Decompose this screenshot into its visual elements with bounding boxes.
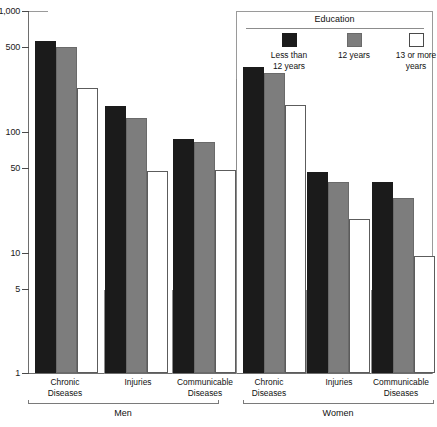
- bar-12-years: [194, 142, 215, 373]
- category-label-line1: Chronic: [255, 377, 284, 387]
- legend-label-line1: 13 or more: [384, 50, 437, 61]
- group-rule-women: [243, 403, 433, 404]
- x-axis-line: [28, 373, 433, 374]
- bar-12-years: [393, 198, 414, 373]
- legend-swatch-icon-dark: [282, 33, 297, 47]
- bar-13-or-more-years: [285, 105, 306, 373]
- category-label-women-communicable: Communicable Diseases: [366, 377, 436, 399]
- category-label-line2: Diseases: [366, 388, 436, 399]
- category-label-women-injuries: Injuries: [306, 377, 372, 388]
- category-label-line1: Injuries: [125, 377, 152, 387]
- y-tick-label-5: 5: [15, 285, 20, 294]
- category-label-line1: Injuries: [326, 377, 353, 387]
- legend-label-line2: years: [384, 61, 437, 72]
- y-tick-label-1: 1: [15, 369, 20, 378]
- y-tick-500: [22, 47, 29, 48]
- legend-label-line1: 12 years: [322, 50, 386, 61]
- bar-13-or-more-years: [77, 88, 98, 373]
- group-separator-2: [172, 290, 173, 374]
- bar-chart: 1,000 500 100 50 10 5 1 Chronic Diseases…: [0, 0, 437, 427]
- bar-13-or-more-years: [414, 256, 435, 373]
- group-rule-tick-men-left: [28, 400, 29, 404]
- legend-item-12-years[interactable]: 12 years: [322, 33, 386, 61]
- legend-title-underline: [246, 28, 424, 29]
- category-label-line1: Chronic: [51, 377, 80, 387]
- legend-title: Education: [236, 14, 433, 25]
- legend-item-less-than-12-years[interactable]: Less than 12 years: [257, 33, 321, 72]
- y-axis-line: [28, 11, 29, 374]
- bar-less-than-12-years: [243, 67, 264, 373]
- group-rule-men: [28, 403, 218, 404]
- legend-label-line1: Less than: [257, 50, 321, 61]
- bar-13-or-more-years: [215, 170, 236, 373]
- y-tick-label-50: 50: [10, 164, 20, 173]
- bar-less-than-12-years: [35, 41, 56, 373]
- bar-less-than-12-years: [173, 139, 194, 373]
- group-label-women: Women: [243, 407, 433, 419]
- y-tick-1000: [22, 11, 29, 12]
- y-tick-1: [22, 373, 29, 374]
- category-label-women-chronic: Chronic Diseases: [230, 377, 308, 399]
- bar-13-or-more-years: [147, 171, 168, 373]
- group-separator-4: [371, 290, 372, 374]
- y-tick-label-500: 500: [6, 43, 20, 52]
- y-tick-5: [22, 289, 29, 290]
- y-tick-label-1000: 1,000: [0, 7, 20, 16]
- y-tick-10: [22, 253, 29, 254]
- category-label-line2: Diseases: [230, 388, 308, 399]
- plot-frame-top-left: [28, 11, 48, 12]
- y-tick-label-10: 10: [10, 249, 20, 258]
- category-label-men-chronic: Chronic Diseases: [26, 377, 104, 399]
- bar-12-years: [56, 47, 77, 373]
- y-tick-50: [22, 168, 29, 169]
- bar-less-than-12-years: [307, 172, 328, 373]
- group-separator-1: [104, 290, 105, 374]
- group-separator-3: [306, 290, 307, 374]
- y-tick-label-100: 100: [6, 128, 20, 137]
- bar-12-years: [126, 118, 147, 373]
- bar-less-than-12-years: [105, 106, 126, 373]
- bar-13-or-more-years: [349, 219, 370, 373]
- legend-swatch-icon-gray: [347, 33, 362, 47]
- legend-item-13-or-more-years[interactable]: 13 or more years: [384, 33, 437, 72]
- y-tick-100: [22, 132, 29, 133]
- bar-12-years: [264, 73, 285, 373]
- group-label-men: Men: [28, 407, 218, 419]
- category-label-men-injuries: Injuries: [104, 377, 172, 388]
- group-rule-tick-women-left: [243, 400, 244, 404]
- legend-label-line2: 12 years: [257, 61, 321, 72]
- category-label-line2: Diseases: [26, 388, 104, 399]
- category-label-line1: Communicable: [177, 377, 233, 387]
- bar-less-than-12-years: [372, 182, 393, 373]
- group-rule-tick-women-right: [433, 400, 434, 404]
- group-rule-tick-men-right: [218, 400, 219, 404]
- bar-12-years: [328, 182, 349, 373]
- legend-swatch-icon-white: [409, 33, 424, 47]
- category-label-line1: Communicable: [373, 377, 429, 387]
